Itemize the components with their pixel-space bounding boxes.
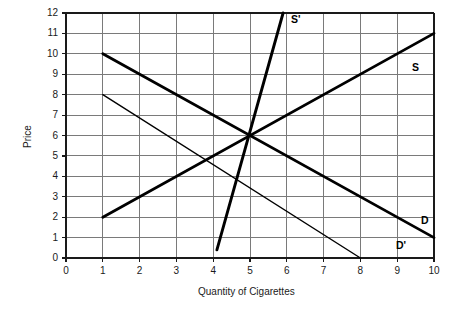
y-tick-label-5: 5 bbox=[38, 151, 58, 161]
x-tick-label-9: 9 bbox=[387, 266, 407, 276]
x-tick-label-5: 5 bbox=[240, 266, 260, 276]
y-tick-label-3: 3 bbox=[38, 192, 58, 202]
y-tick-label-6: 6 bbox=[38, 131, 58, 141]
x-tick-label-2: 2 bbox=[130, 266, 150, 276]
y-tick-label-4: 4 bbox=[38, 171, 58, 181]
curve-label-demand: D bbox=[421, 215, 429, 226]
curve-label-demand-shifted: D' bbox=[396, 240, 406, 251]
y-tick-label-11: 11 bbox=[38, 28, 58, 38]
y-tick-label-10: 10 bbox=[38, 49, 58, 59]
x-tick-label-4: 4 bbox=[203, 266, 223, 276]
y-tick-label-9: 9 bbox=[38, 69, 58, 79]
y-tick-label-2: 2 bbox=[38, 212, 58, 222]
curve-label-supply: S bbox=[412, 62, 419, 73]
x-axis-title: Quantity of Cigarettes bbox=[198, 286, 295, 297]
y-tick-label-8: 8 bbox=[38, 90, 58, 100]
y-tick-label-7: 7 bbox=[38, 110, 58, 120]
y-tick-label-1: 1 bbox=[38, 233, 58, 243]
curve-label-supply-shifted: S' bbox=[291, 14, 301, 25]
y-tick-label-0: 0 bbox=[38, 253, 58, 263]
supply-demand-chart: 12 11 10 9 8 7 6 5 4 3 2 1 0 0 1 2 3 4 5… bbox=[0, 0, 465, 314]
x-tick-label-3: 3 bbox=[166, 266, 186, 276]
y-tick-label-12: 12 bbox=[38, 8, 58, 18]
x-tick-label-0: 0 bbox=[56, 266, 76, 276]
curve-demand bbox=[103, 54, 434, 238]
x-tick-label-6: 6 bbox=[277, 266, 297, 276]
x-tick-label-10: 10 bbox=[424, 266, 444, 276]
y-axis-title: Price bbox=[22, 125, 33, 148]
x-tick-label-7: 7 bbox=[314, 266, 334, 276]
x-tick-label-1: 1 bbox=[93, 266, 113, 276]
x-tick-label-8: 8 bbox=[350, 266, 370, 276]
